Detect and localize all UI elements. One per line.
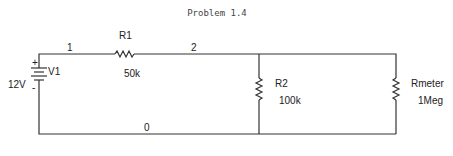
rmeter-name-label: Rmeter xyxy=(411,78,444,89)
wire-bottom xyxy=(39,84,396,134)
source-name-label: V1 xyxy=(48,66,61,77)
wires xyxy=(39,54,396,134)
source-value-label: 12V xyxy=(8,79,26,90)
resistor-r2-symbol xyxy=(256,78,262,100)
node-1-label: 1 xyxy=(67,42,73,53)
resistor-r1-symbol xyxy=(115,51,134,57)
r2-name-label: R2 xyxy=(275,78,288,89)
resistor-rmeter-symbol xyxy=(393,78,399,100)
diagram-title: Problem 1.4 xyxy=(187,8,247,18)
battery-plus-label: + xyxy=(32,57,38,68)
node-0-label: 0 xyxy=(144,122,150,133)
node-2-label: 2 xyxy=(191,42,197,53)
r1-name-label: R1 xyxy=(119,30,132,41)
wire-top-right xyxy=(134,54,396,78)
circuit-diagram: Problem 1.4 + - V1 12V R1 50k R2 100k Rm… xyxy=(0,0,453,156)
r1-value-label: 50k xyxy=(124,68,141,79)
rmeter-value-label: 1Meg xyxy=(418,95,443,106)
r2-value-label: 100k xyxy=(279,95,302,106)
battery-minus-label: - xyxy=(32,82,35,93)
